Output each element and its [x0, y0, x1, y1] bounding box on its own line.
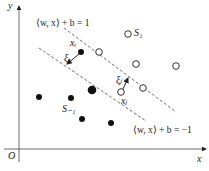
xj-slack-arrow [123, 78, 128, 89]
negative-points [36, 49, 114, 126]
xj-slack-label: ξⱼ [116, 75, 122, 85]
svm-diagram [0, 0, 209, 171]
xj-label: xⱼ [121, 96, 127, 106]
origin-label: O [8, 151, 15, 161]
lower-margin-line [39, 48, 146, 121]
lower-margin-label: ⟨w, x⟩ + b = −1 [133, 126, 192, 136]
negative-class-label: S₋₁ [62, 104, 75, 114]
upper-margin-label: ⟨w, x⟩ + b = 1 [36, 19, 89, 29]
positive-points [96, 31, 180, 96]
xi-slack-label: ξᵢ [64, 53, 70, 63]
upper-margin-line [64, 28, 176, 112]
positive-class-label: S₁ [134, 28, 142, 38]
y-axis-label: y [8, 1, 12, 11]
xi-label: xᵢ [70, 38, 76, 48]
x-axis-label: x [197, 154, 201, 164]
